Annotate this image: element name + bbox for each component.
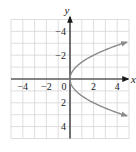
x-tick-label: −4 (17, 81, 28, 92)
y-tick-label: 2 (61, 97, 66, 108)
curve-upper-branch (70, 42, 127, 79)
x-tick-label: 2 (91, 81, 96, 92)
x-tick-label: −2 (41, 81, 52, 92)
y-axis-label: y (64, 4, 70, 16)
y-tick-label: −4 (55, 26, 66, 37)
x-axis-label: x (130, 73, 136, 85)
y-tick-label: −2 (55, 50, 66, 61)
parabola-chart: −4−202442−2−4xy (0, 0, 136, 152)
y-tick-label: 4 (61, 121, 66, 132)
x-tick-label: 4 (115, 81, 120, 92)
x-tick-label: 0 (62, 81, 67, 92)
